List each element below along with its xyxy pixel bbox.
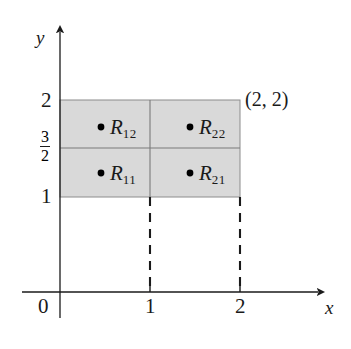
math-figure: y x 0 1 2 2 1 3 2 (2, 2) R12 R22 R11 R21	[0, 0, 351, 349]
corner-coordinate-label: (2, 2)	[245, 89, 288, 109]
subrectangle-base-R11: R	[110, 161, 123, 185]
subrectangle-base-R22: R	[199, 115, 212, 139]
sample-point-R12	[98, 124, 105, 131]
fraction-numerator: 3	[40, 129, 50, 145]
x-axis-label: x	[325, 298, 333, 317]
y-tick-label-three-halves: 3 2	[40, 129, 50, 165]
y-tick-label-1: 1	[41, 186, 52, 207]
subrectangle-label-R22: R22	[199, 117, 225, 138]
y-tick-label-2: 2	[41, 90, 52, 111]
sample-point-R11	[98, 170, 105, 177]
x-tick-label-2: 2	[235, 296, 246, 317]
subrectangle-label-R21: R21	[199, 163, 225, 184]
subrectangle-base-R12: R	[110, 115, 123, 139]
x-tick-label-1: 1	[145, 296, 156, 317]
subrectangle-subscript-R11: 11	[123, 172, 136, 187]
y-axis-label: y	[36, 28, 44, 47]
subrectangle-subscript-R22: 22	[212, 126, 226, 141]
subrectangle-subscript-R12: 12	[123, 126, 137, 141]
subrectangle-base-R21: R	[199, 161, 212, 185]
sample-point-R22	[187, 124, 194, 131]
subrectangle-subscript-R21: 21	[212, 172, 226, 187]
subrectangle-label-R12: R12	[110, 117, 136, 138]
figure-canvas	[0, 0, 351, 349]
subrectangle-label-R11: R11	[110, 163, 136, 184]
fraction-denominator: 2	[40, 148, 50, 164]
origin-label: 0	[38, 296, 49, 317]
sample-point-R21	[187, 170, 194, 177]
